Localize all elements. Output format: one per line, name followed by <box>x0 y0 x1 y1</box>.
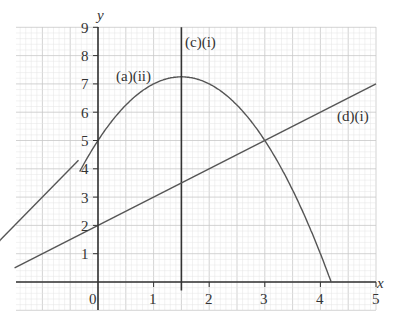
curve-label: (a)(ii) <box>116 68 151 85</box>
y-tick-8: 8 <box>81 48 89 64</box>
x-tick-5: 5 <box>372 291 380 307</box>
y-tick-7: 7 <box>81 76 89 92</box>
line-label: (d)(i) <box>337 108 369 125</box>
line-y-x-plus-2 <box>15 84 376 268</box>
vline-label: (c)(i) <box>185 34 216 51</box>
y-tick-4: 4 <box>81 161 89 177</box>
origin-label: 0 <box>89 291 97 307</box>
y-tick-1: 1 <box>81 246 89 262</box>
graph: 0 1 2 3 4 5 1 2 3 4 5 6 7 8 9 x y (a)(ii… <box>0 0 396 322</box>
y-tick-5: 5 <box>81 133 89 149</box>
plot-lines <box>0 27 376 302</box>
x-tick-2: 2 <box>205 291 213 307</box>
parabola-curve <box>80 77 331 282</box>
y-tick-9: 9 <box>81 20 89 36</box>
x-tick-1: 1 <box>149 291 157 307</box>
y-tick-2: 2 <box>81 218 89 234</box>
x-tick-4: 4 <box>316 291 324 307</box>
x-axis-label: x <box>376 275 384 291</box>
y-tick-3: 3 <box>81 190 89 206</box>
x-tick-3: 3 <box>260 291 268 307</box>
y-axis-label: y <box>95 7 104 23</box>
y-tick-6: 6 <box>81 105 89 121</box>
